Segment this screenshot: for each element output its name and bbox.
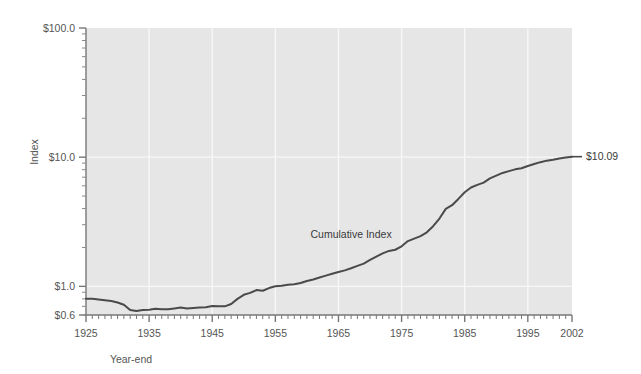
y-axis-title: Index [28, 138, 40, 164]
x-axis-tick-label: 1955 [264, 327, 288, 339]
y-axis-tick-label: $0.6 [55, 309, 76, 321]
x-axis-tick-label: 1925 [74, 327, 98, 339]
series-annotation-label: Cumulative Index [311, 228, 393, 240]
x-axis-tick-label: 2002 [560, 327, 584, 339]
x-axis-tick-label: 1975 [390, 327, 414, 339]
plot-area [86, 28, 572, 315]
x-axis-tick-label: 1935 [137, 327, 161, 339]
y-axis-tick-label: $1.0 [55, 280, 76, 292]
chart-container: $100.0$10.0$1.0$0.6 19251935194519551965… [0, 0, 641, 374]
end-value-label: $10.09 [586, 150, 618, 162]
plot-background [86, 28, 572, 315]
x-axis-tick-label: 1995 [516, 327, 540, 339]
y-axis-tick-label: $100.0 [43, 22, 75, 34]
x-axis-tick-label: 1985 [453, 327, 477, 339]
x-axis-title: Year-end [110, 353, 152, 365]
x-axis-tick-label: 1945 [201, 327, 225, 339]
x-axis-tick-label: 1965 [327, 327, 351, 339]
cumulative-index-line-chart: $100.0$10.0$1.0$0.6 19251935194519551965… [0, 0, 641, 374]
y-axis-tick-label: $10.0 [49, 151, 75, 163]
